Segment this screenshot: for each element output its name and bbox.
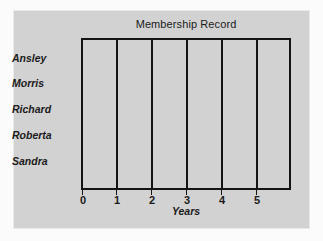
y-axis-label-richard: Richard [12,103,78,115]
y-axis-label-morris: Morris [12,77,78,89]
y-axis-label-sandra: Sandra [12,155,78,167]
gridline-4 [221,40,223,188]
gridline-3 [186,40,188,188]
chart-title: Membership Record [81,18,291,30]
y-axis-labels: Ansley Morris Richard Roberta Sandra [14,38,78,190]
gridline-1 [116,40,118,188]
y-axis-label-ansley: Ansley [12,52,78,64]
x-axis-title: Years [81,205,291,217]
gridline-5 [256,40,258,188]
chart-screenshot: Membership Record Ansley Morris Richard … [0,0,323,241]
y-axis-label-roberta: Roberta [12,129,78,141]
gridline-2 [151,40,153,188]
plot-area [81,38,291,190]
